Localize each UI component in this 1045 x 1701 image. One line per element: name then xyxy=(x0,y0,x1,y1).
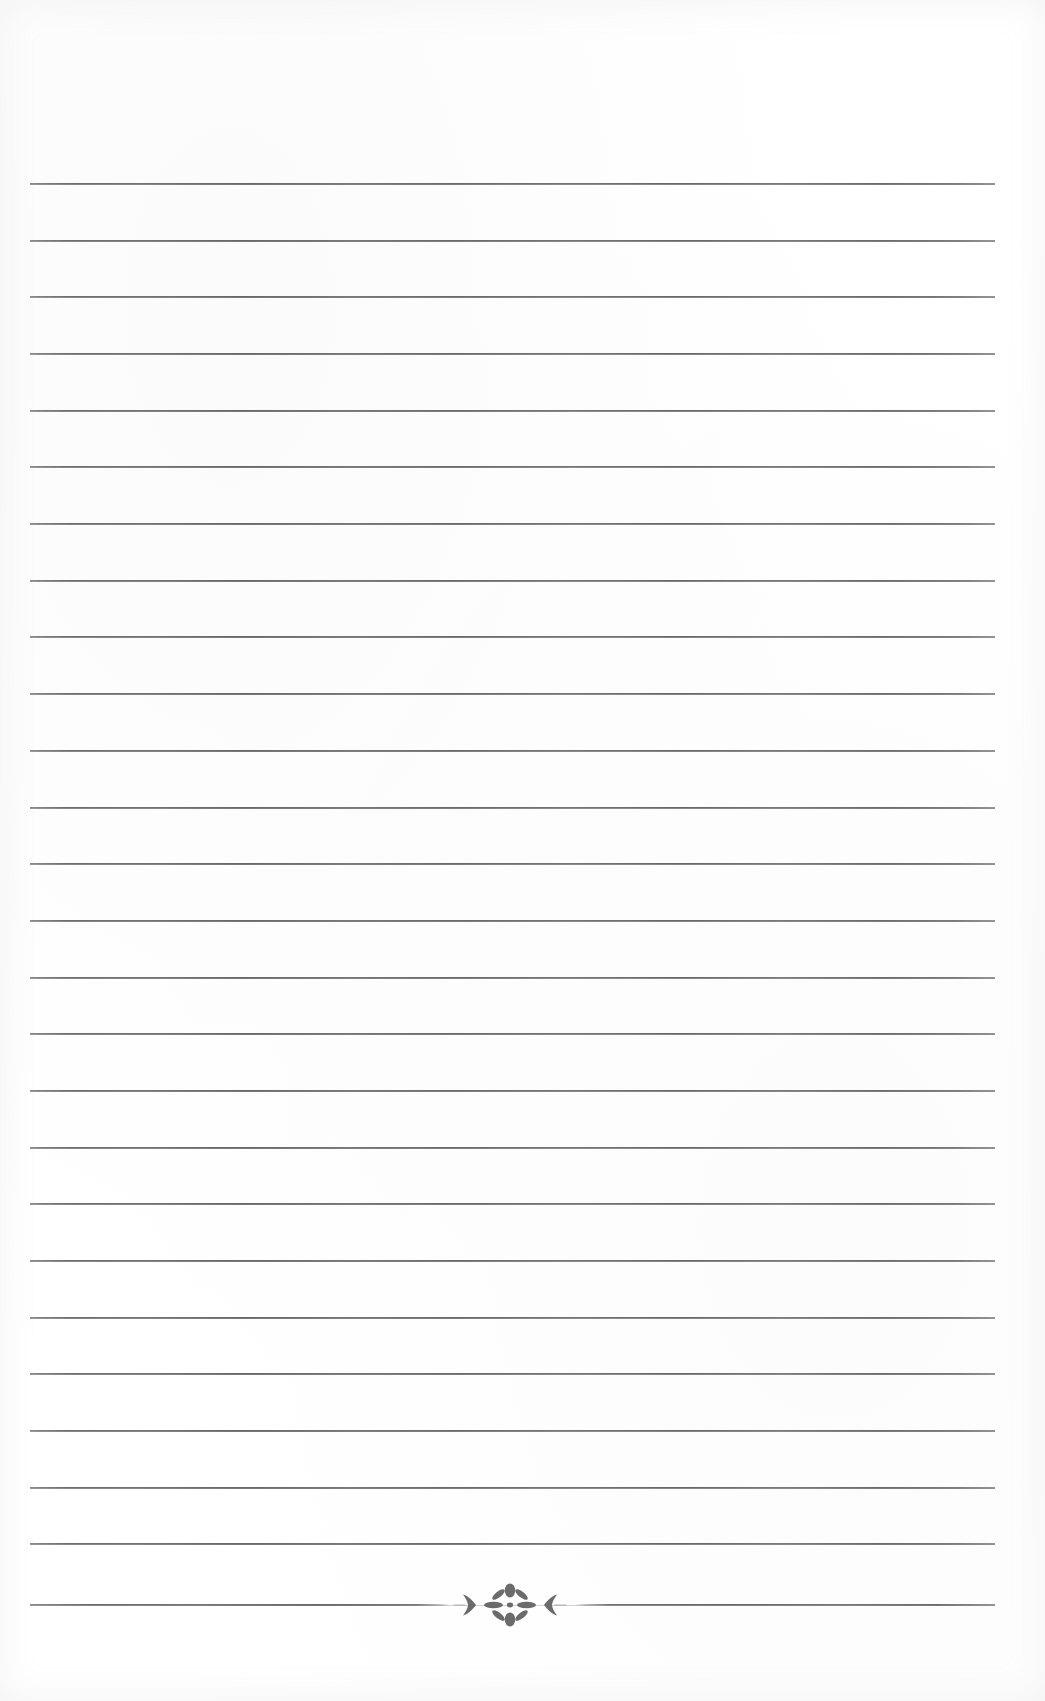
ornament-flower-center xyxy=(507,1603,513,1608)
ruled-line-ink xyxy=(30,807,995,809)
ornament-petal-s xyxy=(505,1613,515,1627)
ruled-line xyxy=(30,863,995,865)
ornament-petal-n xyxy=(505,1584,515,1598)
ruled-line-ink xyxy=(30,1543,995,1545)
floral-rosette-divider-icon xyxy=(435,1582,585,1628)
ruled-line xyxy=(30,1203,995,1205)
ruled-line-ink xyxy=(30,1317,995,1319)
ornament-petal-w xyxy=(484,1602,503,1608)
ruled-line-ink xyxy=(30,523,995,525)
ruled-line-ink xyxy=(30,580,995,582)
ruled-line-ink xyxy=(30,1373,995,1375)
ruled-line-ink xyxy=(30,410,995,412)
ruled-line xyxy=(30,750,995,752)
ruled-line xyxy=(30,183,995,185)
ruled-line-ink xyxy=(30,1147,995,1149)
ruled-line-ink xyxy=(30,636,995,638)
ornament-petal-e xyxy=(517,1602,536,1608)
ruled-line-ink xyxy=(30,977,995,979)
ruled-line xyxy=(30,693,995,695)
ruled-line xyxy=(30,977,995,979)
ruled-line-ink xyxy=(30,1090,995,1092)
ruled-line-ink xyxy=(30,920,995,922)
ruled-line-ink xyxy=(30,750,995,752)
ruled-line xyxy=(30,410,995,412)
ornament-petal-nw xyxy=(491,1587,507,1601)
ruled-line-ink xyxy=(30,1260,995,1262)
ornament-shapes xyxy=(449,1584,571,1627)
ruled-line-ink xyxy=(30,1203,995,1205)
ruled-line xyxy=(30,296,995,298)
ruled-line xyxy=(30,580,995,582)
ruled-line-ink xyxy=(30,183,995,185)
ruled-line xyxy=(30,920,995,922)
ruled-line xyxy=(30,1317,995,1319)
ruled-line-ink xyxy=(30,466,995,468)
ruled-line xyxy=(30,807,995,809)
ruled-line xyxy=(30,1430,995,1432)
ruled-line-ink xyxy=(30,240,995,242)
ruled-line xyxy=(30,466,995,468)
ornament-petal-se xyxy=(514,1608,530,1622)
ruled-line-ink xyxy=(30,353,995,355)
ruled-lines-container xyxy=(0,0,1045,1701)
writing-paper-page xyxy=(0,0,1045,1701)
ruled-line-ink xyxy=(30,863,995,865)
ruled-line xyxy=(30,240,995,242)
ruled-line-ink xyxy=(30,1033,995,1035)
ruled-line xyxy=(30,1487,995,1489)
ruled-line xyxy=(30,1260,995,1262)
ruled-line xyxy=(30,1373,995,1375)
ornament-petal-ne xyxy=(514,1587,530,1601)
ruled-line xyxy=(30,1147,995,1149)
ornament-right-stem xyxy=(552,1605,571,1606)
ornament-left-stem xyxy=(449,1605,468,1606)
ruled-line xyxy=(30,1090,995,1092)
ruled-line-ink xyxy=(30,693,995,695)
ruled-line-ink xyxy=(30,1430,995,1432)
ruled-line xyxy=(30,523,995,525)
ruled-line-ink xyxy=(30,1487,995,1489)
ruled-line xyxy=(30,636,995,638)
ornament-petal-sw xyxy=(491,1608,507,1622)
ruled-line xyxy=(30,353,995,355)
ruled-line-ink xyxy=(30,296,995,298)
ruled-line xyxy=(30,1033,995,1035)
ruled-line xyxy=(30,1543,995,1545)
